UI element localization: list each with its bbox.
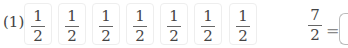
fraction-box: 1 2 [58,3,86,45]
numerator: 1 [59,9,85,24]
fraction: 1 2 [161,9,187,44]
fraction: 1 2 [195,9,221,44]
numerator: 1 [161,9,187,24]
fraction: 1 2 [230,9,256,44]
denominator: 2 [161,29,187,44]
denominator: 2 [127,29,153,44]
fraction-box: 1 2 [160,3,188,45]
numerator: 1 [195,9,221,24]
numerator: 1 [93,9,119,24]
fraction: 1 2 [93,9,119,44]
fraction: 1 2 [127,9,153,44]
answer-blank[interactable] [339,13,348,45]
problem-label: (1) [3,13,24,31]
denominator: 2 [305,28,325,43]
numerator: 1 [25,9,51,24]
denominator: 2 [230,29,256,44]
numerator: 7 [305,8,325,23]
fraction: 1 2 [59,9,85,44]
fraction-box: 1 2 [126,3,154,45]
fraction-box: 1 2 [92,3,120,45]
denominator: 2 [93,29,119,44]
numerator: 1 [230,9,256,24]
fraction: 1 2 [25,9,51,44]
denominator: 2 [195,29,221,44]
denominator: 2 [25,29,51,44]
fraction-box: 1 2 [229,3,257,45]
denominator: 2 [59,29,85,44]
fraction-box: 1 2 [24,3,52,45]
equals-sign: = [326,21,339,40]
fraction-box: 1 2 [194,3,222,45]
numerator: 1 [127,9,153,24]
equation-fraction: 7 2 [305,8,325,43]
